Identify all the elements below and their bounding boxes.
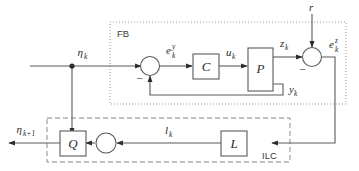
signal-label-z-k: z k bbox=[279, 37, 289, 52]
ilc-group-label: ILC bbox=[262, 150, 277, 161]
q-filter-block-label: Q bbox=[68, 136, 78, 151]
error-y-sup: y bbox=[171, 42, 176, 51]
inner-sum-negative-sign: – bbox=[136, 71, 143, 83]
signal-label-eta-k: η k bbox=[78, 46, 88, 61]
eta-branch-node bbox=[69, 63, 74, 68]
error-z-base: e bbox=[329, 38, 334, 50]
learning-filter-block-label: L bbox=[229, 136, 237, 151]
eta-k-sub: k bbox=[84, 52, 88, 61]
feedback-group-label: FB bbox=[117, 28, 129, 39]
controller-block-label: C bbox=[202, 59, 211, 74]
error-y-base: e bbox=[166, 44, 171, 56]
ilc-summing-junction[interactable] bbox=[96, 133, 116, 153]
eta-k-base: η bbox=[78, 46, 83, 58]
ilc-block-diagram: C P L Q – – η k η k+1 e y k bbox=[0, 0, 359, 171]
error-y-sub: k bbox=[172, 51, 176, 60]
signal-label-eta-k-next: η k+1 bbox=[17, 123, 36, 138]
l-k-sub: k bbox=[169, 130, 173, 139]
y-k-sub: k bbox=[294, 89, 298, 98]
signal-label-error-z: e z k bbox=[329, 36, 339, 54]
eta-next-base: η bbox=[17, 123, 22, 135]
z-k-sub: k bbox=[285, 43, 289, 52]
error-z-sub: k bbox=[335, 45, 339, 54]
eta-next-sub: k+1 bbox=[23, 129, 35, 138]
diagram-canvas: C P L Q – – η k η k+1 e y k bbox=[0, 0, 359, 171]
signal-label-reference: r bbox=[309, 1, 314, 13]
signal-label-l-k: l k bbox=[165, 124, 173, 139]
plant-block-label: P bbox=[256, 61, 265, 76]
u-k-sub: k bbox=[232, 52, 236, 61]
signal-label-y-k: y k bbox=[288, 83, 298, 98]
signal-label-u-k: u k bbox=[226, 46, 236, 61]
outer-sum-negative-sign: – bbox=[299, 62, 306, 74]
error-z-sup: z bbox=[334, 36, 338, 45]
l-k-base: l bbox=[165, 124, 168, 136]
inner-summing-junction[interactable] bbox=[141, 57, 160, 76]
signal-label-error-y: e y k bbox=[166, 42, 176, 60]
